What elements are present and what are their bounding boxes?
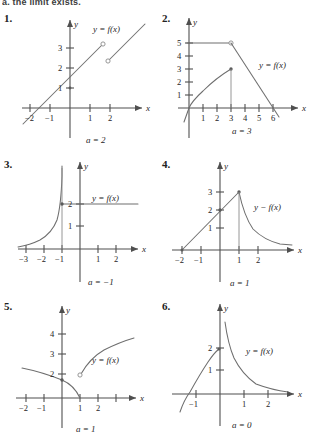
panel-2-xaxis-label: x bbox=[301, 103, 306, 113]
panel-4-ytick-2: 2 bbox=[208, 205, 212, 215]
figure-grid: 1. bbox=[0, 8, 320, 440]
panel-3-xaxis-label: x bbox=[141, 244, 146, 254]
panel-1-ytick-1: 1 bbox=[58, 83, 62, 93]
panel-5-labels: −2 −1 1 2 2 3 4 x y y = f(x) a = 1 bbox=[19, 305, 144, 434]
panel-3-xtick--3: −3 bbox=[19, 254, 28, 264]
panel-2-ytick-5: 5 bbox=[177, 38, 181, 48]
panel-5-ytick-4: 4 bbox=[50, 329, 55, 339]
panel-4-a-label: a = 1 bbox=[230, 278, 250, 288]
panel-2-xtick-5: 5 bbox=[257, 113, 261, 123]
panel-3-xtick--1: −1 bbox=[55, 254, 64, 264]
panel-3: 3. bbox=[0, 154, 160, 298]
panel-1-yaxis-label: y bbox=[73, 19, 78, 29]
panel-4-xaxis-label: x bbox=[297, 245, 302, 255]
panel-6-xtick--1: −1 bbox=[189, 399, 198, 409]
panel-5-xaxis-label: x bbox=[139, 393, 144, 403]
panel-5: 5. bbox=[0, 296, 160, 440]
panel-3-function-label: y = f(x) bbox=[91, 193, 119, 203]
panel-4-ytick-1: 1 bbox=[208, 223, 212, 233]
panel-6-plot: −1 1 2 1 2 x y y = f(x) a = 0 bbox=[158, 296, 318, 440]
panel-1-function-label: y = f(x) bbox=[92, 24, 120, 34]
panel-5-axes bbox=[16, 306, 136, 428]
panel-3-ytick-1: 1 bbox=[68, 221, 72, 231]
panel-5-xtick-1: 1 bbox=[78, 403, 82, 413]
panel-1-plot: −2 −1 1 2 1 2 3 x y y = f(x) a = 2 bbox=[0, 8, 160, 152]
panel-3-data bbox=[18, 166, 138, 249]
panel-2-ytick-2: 2 bbox=[177, 77, 181, 87]
panel-2-xtick-3: 3 bbox=[229, 113, 233, 123]
panel-2-ytick-4: 4 bbox=[177, 51, 182, 61]
panel-2-axes bbox=[178, 18, 298, 138]
panel-3-axes bbox=[18, 162, 138, 282]
panel-6-ytick-1: 1 bbox=[208, 365, 212, 375]
page-header-text: a. the limit exists. bbox=[2, 0, 318, 8]
panel-5-xtick-2: 2 bbox=[96, 403, 100, 413]
panel-6-function-label: y = f(x) bbox=[245, 346, 273, 356]
panel-1-ytick-2: 2 bbox=[58, 63, 62, 73]
panel-4-xtick--2: −2 bbox=[175, 255, 184, 265]
panel-2-plot: 1 2 3 4 5 6 1 2 3 4 5 x y y = f(x) a = 3 bbox=[158, 8, 318, 152]
panel-6-yaxis-label: y bbox=[223, 303, 228, 313]
panel-5-data bbox=[22, 338, 134, 398]
panel-3-yaxis-label: y bbox=[83, 161, 88, 171]
panel-1-axes bbox=[22, 20, 142, 138]
panel-5-xtick--2: −2 bbox=[19, 403, 28, 413]
panel-6-ytick-2: 2 bbox=[208, 343, 212, 353]
panel-4-function-label: y − f(x) bbox=[253, 202, 281, 212]
panel-3-ytick-2: 2 bbox=[68, 199, 72, 209]
panel-2-xtick-2: 2 bbox=[215, 113, 219, 123]
panel-5-plot: −2 −1 1 2 2 3 4 x y y = f(x) a = 1 bbox=[0, 296, 160, 440]
panel-4-axes bbox=[172, 162, 294, 282]
panel-2: 2. bbox=[158, 8, 318, 152]
panel-3-xtick-1: 1 bbox=[96, 254, 100, 264]
panel-5-ytick-3: 3 bbox=[50, 349, 54, 359]
panel-6-xaxis-label: x bbox=[297, 389, 302, 399]
panel-2-ytick-3: 3 bbox=[177, 64, 181, 74]
panel-3-xtick--2: −2 bbox=[37, 254, 46, 264]
panel-3-xtick-2: 2 bbox=[114, 254, 118, 264]
panel-4-ytick-3: 3 bbox=[208, 187, 212, 197]
panel-2-a-label: a = 3 bbox=[232, 126, 252, 136]
panel-3-a-label: a = −1 bbox=[88, 277, 114, 287]
panel-2-function-label: y = f(x) bbox=[258, 60, 286, 70]
panel-1-xtick-2: 2 bbox=[108, 113, 112, 123]
panel-2-xtick-6: 6 bbox=[271, 113, 275, 123]
panel-6-a-label: a = 0 bbox=[232, 420, 252, 430]
panel-2-labels: 1 2 3 4 5 6 1 2 3 4 5 x y y = f(x) a = 3 bbox=[177, 17, 306, 136]
panel-4-xtick--1: −1 bbox=[194, 255, 203, 265]
panel-4-data bbox=[181, 190, 293, 251]
panel-1-xtick-1: 1 bbox=[88, 113, 92, 123]
panel-1-xtick--1: −1 bbox=[45, 113, 54, 123]
panel-1: 1. bbox=[0, 8, 160, 152]
panel-6-xtick-2: 2 bbox=[266, 399, 270, 409]
panel-5-function-label: y = f(x) bbox=[91, 355, 119, 365]
panel-1-ytick-3: 3 bbox=[58, 43, 62, 53]
panel-6: 6. bbox=[158, 296, 318, 440]
panel-3-labels: −3 −2 −1 1 2 1 2 x y y = f(x) a = −1 bbox=[19, 161, 146, 287]
panel-5-xtick--1: −1 bbox=[37, 403, 46, 413]
panel-4-labels: −2 −1 1 2 1 2 3 x y y − f(x) a = 1 bbox=[175, 161, 302, 288]
panel-4-yaxis-label: y bbox=[223, 161, 228, 171]
panel-6-xtick-1: 1 bbox=[242, 399, 246, 409]
panel-1-xtick--2: −2 bbox=[25, 113, 34, 123]
panel-2-xtick-1: 1 bbox=[201, 113, 205, 123]
panel-2-xtick-4: 4 bbox=[243, 113, 248, 123]
panel-5-a-label: a = 1 bbox=[76, 424, 96, 434]
panel-1-a-label: a = 2 bbox=[86, 135, 106, 145]
panel-4-xtick-1: 1 bbox=[237, 255, 241, 265]
panel-5-yaxis-label: y bbox=[65, 305, 70, 315]
panel-4: 4. bbox=[158, 154, 318, 298]
panel-3-plot: −3 −2 −1 1 2 1 2 x y y = f(x) a = −1 bbox=[0, 154, 160, 298]
panel-5-ytick-2: 2 bbox=[50, 369, 54, 379]
panel-6-labels: −1 1 2 1 2 x y y = f(x) a = 0 bbox=[189, 303, 302, 430]
panel-4-xtick-2: 2 bbox=[256, 255, 260, 265]
panel-4-plot: −2 −1 1 2 1 2 3 x y y − f(x) a = 1 bbox=[158, 154, 318, 298]
panel-1-xaxis-label: x bbox=[145, 103, 150, 113]
panel-2-ytick-1: 1 bbox=[177, 90, 181, 100]
panel-1-data bbox=[23, 24, 145, 124]
panel-2-yaxis-label: y bbox=[192, 17, 197, 27]
